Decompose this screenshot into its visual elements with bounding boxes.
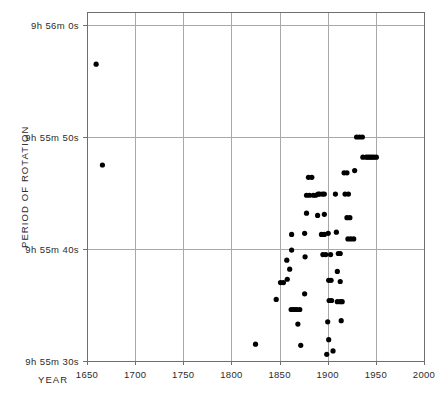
grid-lines (87, 12, 424, 361)
data-point (285, 277, 290, 282)
x-axis-tick-labels: 16501700175018001850190019502000 (76, 369, 435, 380)
data-point (253, 342, 258, 347)
data-point (284, 258, 289, 263)
data-point (274, 297, 279, 302)
tick-marks (83, 26, 425, 366)
x-axis-title: YEAR (38, 374, 68, 385)
x-tick-label: 1700 (124, 369, 146, 380)
axis-titles: PERIOD OF ROTATION YEAR (19, 126, 68, 385)
y-axis-tick-labels: 9h 56m 0s9h 55m 50s9h 55m 40s9h 55m 30s (25, 20, 79, 367)
data-point (338, 251, 343, 256)
data-point (289, 248, 294, 253)
data-point (347, 215, 352, 220)
data-point (335, 269, 340, 274)
data-point (344, 170, 349, 175)
rotation-period-scatter-figure: 16501700175018001850190019502000 9h 56m … (0, 0, 439, 394)
data-point (322, 192, 327, 197)
data-point (295, 321, 300, 326)
data-point (333, 192, 338, 197)
data-points (94, 62, 379, 357)
data-point (346, 192, 351, 197)
data-point (326, 231, 331, 236)
axis-frame (88, 13, 425, 362)
x-tick-label: 1650 (76, 369, 98, 380)
data-point (328, 252, 333, 257)
x-tick-label: 1900 (317, 369, 339, 380)
x-tick-label: 1750 (172, 369, 194, 380)
data-point (94, 62, 99, 67)
data-point (330, 348, 335, 353)
y-tick-label: 9h 55m 30s (25, 356, 79, 367)
x-tick-label: 1800 (220, 369, 242, 380)
plot-canvas: 16501700175018001850190019502000 9h 56m … (0, 0, 439, 394)
data-point (352, 168, 357, 173)
y-tick-label: 9h 56m 0s (31, 20, 79, 31)
y-axis-title: PERIOD OF ROTATION (19, 126, 30, 248)
data-point (287, 267, 292, 272)
data-point (309, 175, 314, 180)
data-point (302, 291, 307, 296)
data-point (100, 162, 105, 167)
data-point (325, 319, 330, 324)
data-point (324, 352, 329, 357)
y-tick-label: 9h 55m 40s (25, 244, 79, 255)
data-point (326, 337, 331, 342)
plot-frame (88, 13, 425, 362)
data-point (304, 211, 309, 216)
data-point (298, 343, 303, 348)
data-point (374, 155, 379, 160)
data-point (322, 212, 327, 217)
data-point (334, 230, 339, 235)
x-tick-label: 1850 (268, 369, 290, 380)
data-point (302, 254, 307, 259)
data-point (315, 213, 320, 218)
data-point (323, 252, 328, 257)
data-point (302, 231, 307, 236)
data-point (328, 278, 333, 283)
data-point (339, 318, 344, 323)
x-tick-label: 2000 (413, 369, 435, 380)
y-tick-label: 9h 55m 50s (25, 132, 79, 143)
data-point (340, 299, 345, 304)
data-point (289, 232, 294, 237)
data-point (297, 307, 302, 312)
data-point (351, 236, 356, 241)
x-tick-label: 1950 (365, 369, 387, 380)
data-point (329, 298, 334, 303)
data-point (338, 279, 343, 284)
data-point (360, 134, 365, 139)
